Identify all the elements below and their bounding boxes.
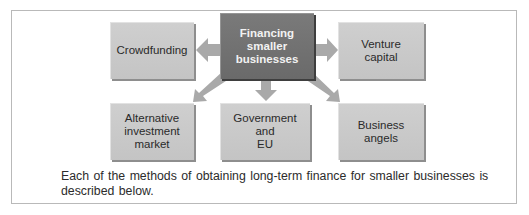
arrow-right-icon — [316, 38, 338, 62]
node-label-line-3: EU — [257, 138, 273, 151]
node-label-line-2: investment — [124, 125, 180, 138]
node-crowdfunding: Crowdfunding — [110, 22, 194, 79]
node-label-line-1: Business — [358, 119, 405, 132]
node-venture-capital: Venture capital — [338, 22, 424, 79]
arrow-down-icon — [255, 80, 277, 101]
node-label-line-1: Venture — [361, 38, 401, 51]
caption-line-2: described below. — [61, 184, 501, 199]
node-label-line-1: Alternative — [125, 112, 179, 125]
center-label-line-2: smaller — [247, 40, 287, 53]
node-business-angels: Business angels — [338, 103, 424, 160]
node-label-line-2: and — [255, 125, 274, 138]
arrow-left-icon — [196, 38, 220, 62]
node-government-and-eu: Government and EU — [220, 103, 310, 160]
node-label-line-1: Government — [233, 112, 296, 125]
caption-line-1: Each of the methods of obtaining long-te… — [61, 169, 501, 184]
node-label-line-2: capital — [364, 51, 397, 64]
center-label-line-3: businesses — [236, 53, 299, 66]
node-alternative-investment-market: Alternative investment market — [110, 103, 194, 160]
node-label-line-2: angels — [364, 132, 398, 145]
center-label-line-1: Financing — [240, 27, 294, 40]
node-label: Crowdfunding — [117, 44, 188, 57]
node-label-line-3: market — [134, 138, 169, 151]
node-financing-smaller-businesses: Financing smaller businesses — [220, 13, 314, 79]
figure-caption: Each of the methods of obtaining long-te… — [61, 169, 501, 199]
